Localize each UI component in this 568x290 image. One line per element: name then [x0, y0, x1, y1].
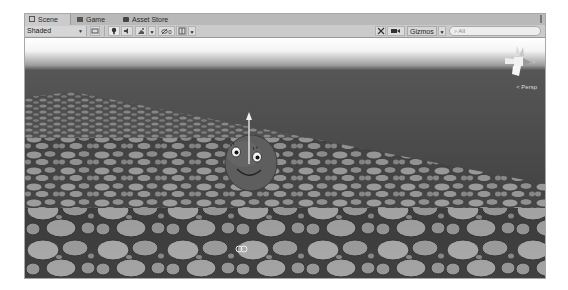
- shading-mode-label: Shaded: [27, 27, 51, 34]
- gizmos-dropdown[interactable]: Gizmos: [407, 26, 437, 36]
- effects-dropdown[interactable]: ▼: [148, 26, 156, 36]
- orientation-gizmo[interactable]: [499, 44, 539, 88]
- speaker-icon: [123, 27, 131, 35]
- scene-window: Scene Game Asset Store Shaded ▼ ▼: [24, 13, 546, 279]
- tab-label: Game: [86, 16, 105, 23]
- hidden-objects-count: 0: [168, 29, 171, 35]
- tab-menu-icon[interactable]: [540, 15, 542, 23]
- tab-label: Scene: [38, 16, 58, 23]
- projection-label: < Persp: [516, 84, 537, 90]
- hierarchy-search-input[interactable]: ⌕ All: [449, 26, 541, 36]
- tools-icon: [377, 27, 385, 35]
- lighting-toggle-button[interactable]: [108, 26, 120, 36]
- tab-game[interactable]: Game: [73, 14, 117, 25]
- projection-toggle[interactable]: < Persp: [516, 84, 537, 90]
- gizmos-label: Gizmos: [410, 28, 434, 35]
- 2d-toggle-button[interactable]: [90, 26, 100, 36]
- separator: [104, 26, 105, 36]
- hidden-objects-toggle[interactable]: 0: [158, 26, 175, 36]
- chevron-down-icon: ▼: [150, 29, 155, 35]
- light-bulb-icon: [110, 27, 118, 35]
- hash-icon: [29, 16, 35, 22]
- tab-label: Asset Store: [132, 16, 168, 23]
- tools-button[interactable]: [375, 26, 386, 36]
- chevron-down-icon: ▼: [190, 29, 195, 35]
- shading-mode-dropdown[interactable]: Shaded ▼: [25, 26, 87, 36]
- effects-icon: [137, 27, 145, 35]
- cobblestone-floor: [25, 38, 545, 278]
- scene-viewport[interactable]: < Persp: [25, 38, 545, 278]
- gizmos-menu-button[interactable]: ▼: [438, 26, 446, 36]
- effects-button[interactable]: [135, 26, 147, 36]
- camera-settings-button[interactable]: [387, 26, 405, 36]
- axis-gizmo-icon: [499, 44, 539, 88]
- search-icon: ⌕: [454, 28, 457, 34]
- tab-scene[interactable]: Scene: [25, 14, 71, 25]
- tab-asset-store[interactable]: Asset Store: [119, 14, 183, 25]
- grid-icon: [178, 27, 186, 35]
- audio-toggle-button[interactable]: [121, 26, 133, 36]
- 2d-toggle-icon: [91, 27, 99, 35]
- bag-icon: [123, 17, 129, 22]
- chevron-down-icon: ▼: [440, 29, 445, 35]
- grid-button[interactable]: [176, 26, 187, 36]
- grid-dropdown[interactable]: ▼: [188, 26, 196, 36]
- game-icon: [77, 17, 83, 22]
- search-placeholder: All: [458, 28, 465, 34]
- chevron-down-icon: ▼: [78, 26, 83, 36]
- scene-toolbar: Shaded ▼ ▼ 0 ▼: [25, 25, 545, 38]
- camera-icon: [390, 27, 402, 35]
- smiley-sphere-object[interactable]: [225, 135, 277, 191]
